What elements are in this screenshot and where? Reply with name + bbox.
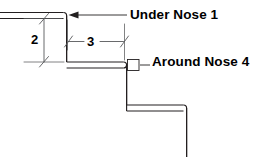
callout-label-around-nose: Around Nose 4 — [152, 55, 249, 69]
callout-label-under-nose: Under Nose 1 — [130, 8, 218, 22]
around-nose-square-terminator — [128, 60, 140, 71]
leader-under-nose — [69, 12, 128, 19]
vertical-dimension-2 — [24, 14, 64, 68]
under-nose-arrowhead — [69, 12, 79, 19]
dimension-value-horizontal: 3 — [87, 35, 94, 48]
leader-around-nose — [128, 60, 151, 71]
drawing-canvas — [0, 0, 273, 157]
dimension-value-vertical: 2 — [31, 33, 38, 46]
stair-nosing-diagram: Under Nose 1 Around Nose 4 2 3 — [0, 0, 273, 157]
horizontal-dimension-3 — [65, 20, 129, 60]
